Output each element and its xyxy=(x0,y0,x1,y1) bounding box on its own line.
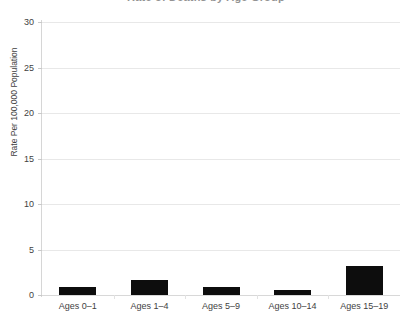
y-tick-label: 10 xyxy=(4,199,34,209)
category-tick xyxy=(257,295,258,299)
x-tick-label: Ages 15–19 xyxy=(328,301,400,311)
y-tick-label: 0 xyxy=(4,290,34,300)
y-tick-label: 25 xyxy=(4,63,34,73)
y-tick-label: 20 xyxy=(4,108,34,118)
category-tick xyxy=(114,295,115,299)
gridline xyxy=(42,113,400,114)
bar xyxy=(346,266,383,295)
y-axis-title: Rate Per 100,000 Population xyxy=(9,37,19,167)
gridline xyxy=(42,159,400,160)
gridline xyxy=(42,22,400,23)
y-tick-label: 15 xyxy=(4,154,34,164)
category-tick xyxy=(185,295,186,299)
chart-title: Rate of Deaths by Age Group xyxy=(0,0,412,3)
y-tick-label: 30 xyxy=(4,17,34,27)
gridline xyxy=(42,250,400,251)
category-tick xyxy=(328,295,329,299)
x-tick-label: Ages 10–14 xyxy=(257,301,329,311)
bar xyxy=(274,290,311,295)
plot-area xyxy=(42,22,400,295)
gridline xyxy=(42,204,400,205)
x-tick-label: Ages 1–4 xyxy=(114,301,186,311)
gridline xyxy=(42,295,400,296)
bar xyxy=(131,280,168,295)
y-tick-label: 5 xyxy=(4,245,34,255)
bar xyxy=(203,287,240,295)
gridline xyxy=(42,68,400,69)
x-tick-label: Ages 5–9 xyxy=(185,301,257,311)
x-tick-label: Ages 0–1 xyxy=(42,301,114,311)
bar xyxy=(59,287,96,295)
bar-chart: Rate of Deaths by Age Group Rate Per 100… xyxy=(0,0,412,324)
